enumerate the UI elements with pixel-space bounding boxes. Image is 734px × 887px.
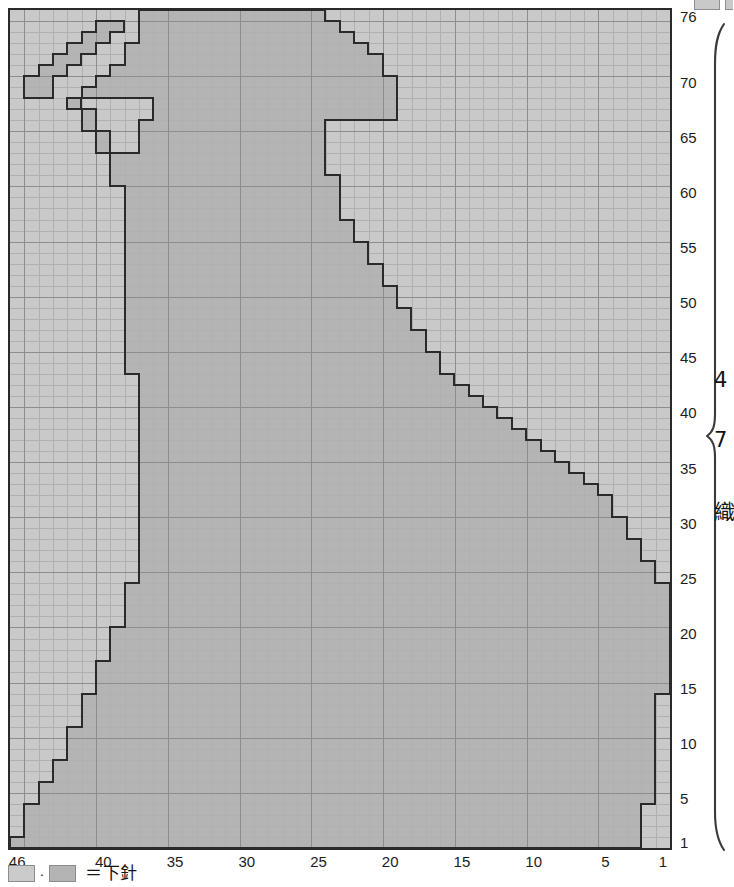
background-swatch bbox=[8, 865, 35, 882]
row-tick-15: 15 bbox=[680, 681, 697, 696]
top-chip-swatch-light bbox=[694, 0, 720, 10]
row-tick-25: 25 bbox=[680, 570, 697, 585]
row-tick-10: 10 bbox=[680, 736, 697, 751]
column-tick-15: 15 bbox=[454, 854, 471, 869]
row-tick-35: 35 bbox=[680, 460, 697, 475]
side-note-a: 4 bbox=[714, 368, 734, 393]
legend-separator: · bbox=[35, 865, 49, 882]
side-note-b: 7 bbox=[714, 428, 734, 453]
column-tick-20: 20 bbox=[382, 854, 399, 869]
top-legend-chip bbox=[694, 0, 734, 10]
row-tick-40: 40 bbox=[680, 405, 697, 420]
row-tick-70: 70 bbox=[680, 74, 697, 89]
column-tick-5: 5 bbox=[601, 854, 609, 869]
chart-grid[interactable] bbox=[8, 8, 672, 850]
row-tick-45: 45 bbox=[680, 350, 697, 365]
row-tick-55: 55 bbox=[680, 240, 697, 255]
chart-grid-canvas[interactable] bbox=[10, 10, 670, 848]
row-tick-60: 60 bbox=[680, 184, 697, 199]
motif-swatch bbox=[49, 865, 76, 882]
side-note-c: 織 bbox=[714, 500, 734, 525]
knitting-chart-page: 464035302520151051 767065605550454035302… bbox=[0, 0, 734, 887]
chart-legend: · ＝下針 bbox=[8, 862, 138, 884]
legend-label: ＝下針 bbox=[85, 864, 138, 882]
column-tick-35: 35 bbox=[167, 854, 184, 869]
top-chip-swatch-dark bbox=[725, 0, 733, 10]
column-tick-10: 10 bbox=[525, 854, 542, 869]
row-tick-1: 1 bbox=[680, 835, 688, 850]
row-tick-50: 50 bbox=[680, 295, 697, 310]
column-tick-30: 30 bbox=[238, 854, 255, 869]
row-tick-30: 30 bbox=[680, 515, 697, 530]
column-tick-25: 25 bbox=[310, 854, 327, 869]
row-tick-76: 76 bbox=[680, 8, 697, 23]
row-tick-20: 20 bbox=[680, 625, 697, 640]
row-tick-5: 5 bbox=[680, 791, 688, 806]
column-tick-1: 1 bbox=[659, 854, 667, 869]
row-tick-65: 65 bbox=[680, 129, 697, 144]
